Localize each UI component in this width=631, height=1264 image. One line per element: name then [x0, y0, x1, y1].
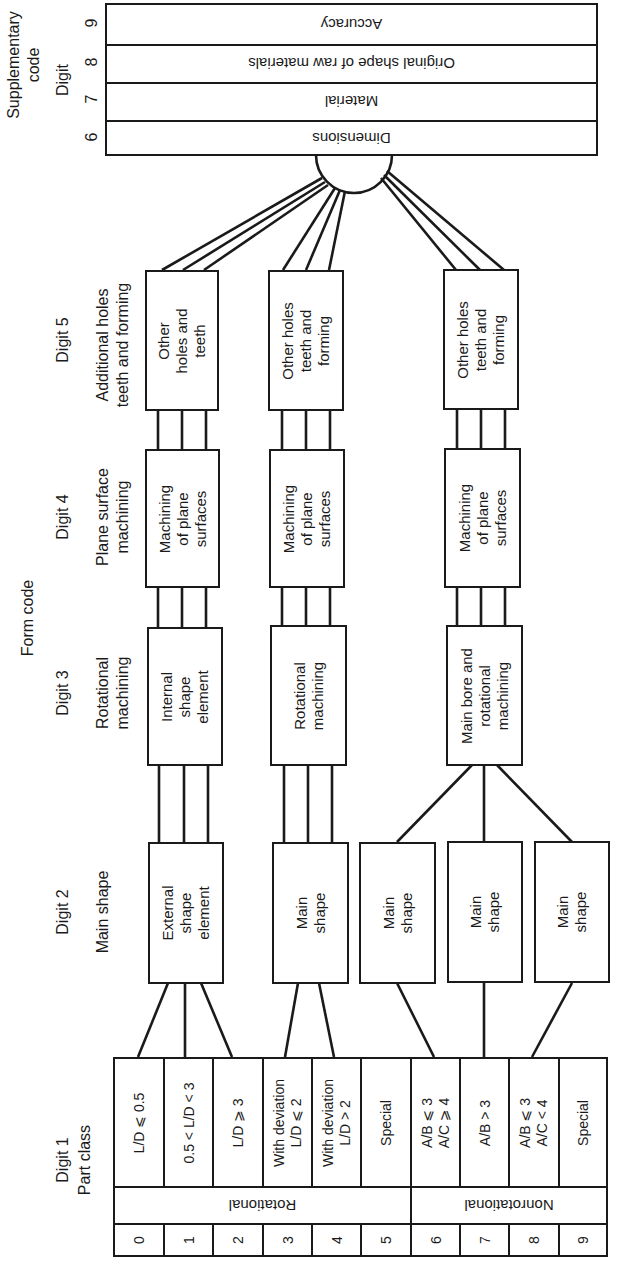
digit-label: 2	[230, 1236, 247, 1244]
class-digit-6: 6	[412, 1225, 461, 1255]
digit-label: 5	[378, 1236, 395, 1244]
form-code-title: Form code	[18, 580, 38, 656]
digit1-header: Digit 1	[53, 1137, 73, 1182]
digit3-description: Rotational machining	[93, 657, 133, 730]
class-digit-3: 3	[264, 1225, 313, 1255]
class-cell-2: L/D ⩾ 3	[214, 1059, 264, 1186]
d5-box-rotational-deviation: Other holes teeth and forming	[268, 270, 344, 411]
class-label: 0.5 < L/D < 3	[180, 1082, 197, 1163]
category-rotational: Rotational	[115, 1186, 412, 1225]
supplementary-code-title: Supplementary code	[4, 11, 44, 119]
supp-label-dimensions: Dimensions	[107, 122, 596, 156]
class-digit-4: 4	[313, 1225, 362, 1255]
class-cell-5: Special	[362, 1059, 412, 1186]
digit-label: 7	[476, 1236, 493, 1244]
digit-label: 9	[575, 1236, 592, 1244]
d5-box-label: Other holes and teeth	[155, 308, 209, 373]
digit5-header: Digit 5	[53, 317, 73, 362]
supp-label-accuracy: Accuracy	[107, 5, 596, 44]
d2-box-main-shape-8: Main shape	[534, 841, 610, 983]
supp-digit-7: 7	[82, 95, 102, 104]
d3-box-label: Internal shape element	[158, 670, 212, 723]
class-digit-8: 8	[510, 1225, 560, 1255]
d2-box-label: Main shape	[467, 892, 503, 933]
d3-box-rotational-machining: Rotational machining	[270, 625, 347, 766]
category-label: Rotational	[115, 1188, 410, 1223]
digit-label: 8	[526, 1236, 543, 1244]
d2-box-label: External shape element	[159, 885, 213, 940]
class-label: A/B ⩽ 3 A/C < 4	[517, 1098, 551, 1148]
class-cell-8: A/B ⩽ 3 A/C < 4	[510, 1059, 560, 1186]
d4-box-label: Machining of plane surfaces	[156, 484, 210, 552]
supplementary-code-box: Accuracy Original shape of raw materials…	[105, 3, 598, 156]
d4-box-rotational-deviation: Machining of plane surfaces	[269, 449, 345, 588]
d2-box-main-shape-6: Main shape	[359, 842, 436, 984]
d2-box-label: Main shape	[380, 893, 416, 934]
d3-box-label: Main bore and rotational machining	[458, 648, 512, 744]
class-cell-1: 0.5 < L/D < 3	[165, 1059, 214, 1186]
d3-box-internal-shape: Internal shape element	[147, 627, 223, 766]
class-digit-7: 7	[461, 1225, 510, 1255]
category-label: Nonrotational	[412, 1188, 606, 1223]
class-cell-6: A/B ⩽ 3 A/C ⩾ 4	[412, 1059, 461, 1186]
class-cell-3: With deviation L/D ⩽ 2	[264, 1059, 313, 1186]
class-digit-5: 5	[362, 1225, 412, 1255]
supp-row-material: Material	[107, 82, 596, 120]
digit2-description: Main shape	[93, 871, 113, 954]
d5-box-label: Other holes teeth and forming	[454, 301, 508, 379]
class-digit-1: 1	[165, 1225, 214, 1255]
class-cell-4: With deviation L/D > 2	[313, 1059, 362, 1186]
d3-box-label: Rotational machining	[291, 661, 327, 729]
digit4-description: Plane surface machining	[93, 468, 133, 566]
supp-digit-8: 8	[82, 58, 102, 67]
class-label: L/D ⩽ 0.5	[131, 1092, 148, 1153]
class-label: L/D ⩾ 3	[230, 1098, 247, 1147]
d5-box-label: Other holes teeth and forming	[279, 302, 333, 380]
digit3-header: Digit 3	[53, 670, 73, 715]
d2-box-label: Main shape	[293, 893, 329, 934]
supp-digit-9: 9	[82, 19, 102, 28]
category-nonrotational: Nonrotational	[412, 1186, 606, 1225]
digit-label: 4	[328, 1236, 345, 1244]
part-class-table: L/D ⩽ 0.5 0.5 < L/D < 3 L/D ⩾ 3 With dev…	[113, 1057, 608, 1257]
class-label: A/B > 3	[476, 1099, 493, 1145]
d5-box-nonrotational: Other holes teeth and forming	[443, 269, 519, 410]
supp-label-material: Material	[107, 84, 596, 120]
digit-label: 3	[279, 1236, 296, 1244]
digit2-header: Digit 2	[53, 889, 73, 934]
supp-row-original-shape: Original shape of raw materials	[107, 44, 596, 82]
d2-box-external-shape: External shape element	[148, 842, 224, 984]
d2-box-main-shape-rot: Main shape	[272, 842, 349, 984]
supp-label-original-shape: Original shape of raw materials	[107, 46, 596, 82]
supp-digit-6: 6	[82, 133, 102, 142]
supp-row-dimensions: Dimensions	[107, 120, 596, 156]
digit1-description: Part class	[75, 1125, 95, 1195]
supplementary-digit-label: Digit	[53, 64, 73, 96]
class-cell-0: L/D ⩽ 0.5	[115, 1059, 165, 1186]
d4-box-rotational-short: Machining of plane surfaces	[145, 449, 220, 588]
digit-label: 1	[180, 1236, 197, 1244]
supp-row-accuracy: Accuracy	[107, 5, 596, 44]
digit5-description: Additional holes teeth and forming	[93, 283, 133, 408]
d2-box-main-shape-7: Main shape	[447, 841, 523, 983]
digit4-header: Digit 4	[53, 494, 73, 539]
d4-box-label: Machining of plane surfaces	[456, 484, 510, 552]
d4-box-nonrotational: Machining of plane surfaces	[444, 448, 521, 588]
d5-box-rotational-short: Other holes and teeth	[145, 270, 219, 411]
class-label: Special	[575, 1100, 592, 1146]
digit-label: 6	[427, 1236, 444, 1244]
d3-box-main-bore: Main bore and rotational machining	[446, 625, 523, 766]
class-label: With deviation L/D ⩽ 2	[271, 1079, 305, 1167]
class-digit-2: 2	[214, 1225, 264, 1255]
d4-box-label: Machining of plane surfaces	[280, 484, 334, 552]
class-digit-9: 9	[560, 1225, 606, 1255]
class-cell-9: Special	[560, 1059, 606, 1186]
class-cell-7: A/B > 3	[461, 1059, 510, 1186]
digit-label: 0	[131, 1236, 148, 1244]
class-label: With deviation L/D > 2	[320, 1079, 354, 1167]
class-label: Special	[378, 1100, 395, 1146]
d2-box-label: Main shape	[554, 892, 590, 933]
class-digit-0: 0	[115, 1225, 165, 1255]
class-label: A/B ⩽ 3 A/C ⩾ 4	[419, 1097, 453, 1148]
